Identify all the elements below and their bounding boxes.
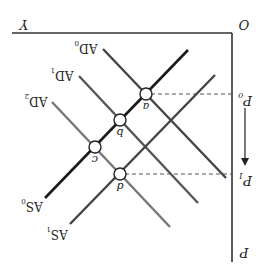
svg-text:P: P bbox=[239, 245, 249, 260]
ad2-curve bbox=[52, 102, 170, 227]
svg-text:d: d bbox=[116, 180, 123, 193]
ad1-curve bbox=[79, 76, 198, 203]
point-d bbox=[114, 168, 126, 180]
as-ad-diagram: O Y P P0 P1 AD0 AD1 AD2 AS0 AS1 a b c d bbox=[0, 0, 264, 277]
svg-text:P1: P1 bbox=[238, 171, 253, 188]
p1-label: P1 bbox=[238, 171, 253, 188]
svg-text:O: O bbox=[238, 17, 249, 32]
svg-text:AD2: AD2 bbox=[25, 92, 49, 108]
svg-text:c: c bbox=[92, 153, 98, 166]
ad0-label: AD0 bbox=[75, 39, 99, 55]
ad1-label: AD1 bbox=[51, 66, 75, 82]
as1-label: AS1 bbox=[46, 225, 68, 241]
origin-label: O bbox=[238, 17, 249, 32]
svg-text:b: b bbox=[116, 126, 123, 139]
svg-text:AD0: AD0 bbox=[75, 39, 99, 55]
as0-label: AS0 bbox=[21, 197, 43, 213]
point-d-label: d bbox=[116, 180, 123, 193]
svg-text:Y: Y bbox=[18, 17, 28, 32]
point-a-label: a bbox=[143, 100, 150, 113]
arrow-down-icon bbox=[241, 158, 249, 166]
svg-text:AD1: AD1 bbox=[51, 66, 75, 82]
point-b-label: b bbox=[116, 126, 123, 139]
svg-text:AS1: AS1 bbox=[46, 225, 68, 241]
point-c bbox=[89, 141, 101, 153]
p0-label: P0 bbox=[238, 91, 253, 108]
svg-text:AS0: AS0 bbox=[21, 197, 43, 213]
point-a bbox=[140, 88, 152, 100]
point-b bbox=[114, 114, 126, 126]
svg-text:P0: P0 bbox=[238, 91, 253, 108]
ad2-label: AD2 bbox=[25, 92, 49, 108]
point-c-label: c bbox=[92, 153, 98, 166]
svg-text:a: a bbox=[143, 100, 150, 113]
y-axis-label: P bbox=[239, 245, 249, 260]
x-axis-label: Y bbox=[18, 17, 28, 32]
